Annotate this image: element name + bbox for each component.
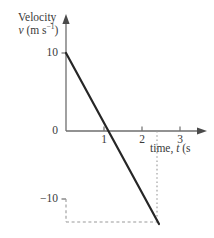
- x-tick-label-3: 3: [172, 133, 188, 145]
- y-axis: [62, 14, 69, 131]
- x-axis-ticks: [104, 127, 180, 132]
- x-tick-label-1: 1: [96, 133, 112, 145]
- y-axis-ticks: [62, 53, 67, 199]
- y-axis-title-line2: v (m s−1): [18, 24, 58, 37]
- x-axis-arrow-icon: [197, 127, 207, 134]
- y-tick-label-10: 10: [32, 46, 58, 58]
- x-tick-label-2: 2: [134, 133, 150, 145]
- y-axis-unit-open: (m s: [24, 24, 47, 36]
- y-tick-label-neg10: −10: [22, 192, 58, 204]
- y-axis-title: Velocity v (m s−1): [18, 11, 58, 37]
- y-axis-arrow-icon: [62, 14, 69, 24]
- y-axis-unit-close: ): [54, 24, 58, 36]
- y-tick-label-0: 0: [32, 124, 58, 136]
- velocity-time-graph-figure: Velocity v (m s−1) time, t (s 10 0 −10 1…: [0, 0, 214, 238]
